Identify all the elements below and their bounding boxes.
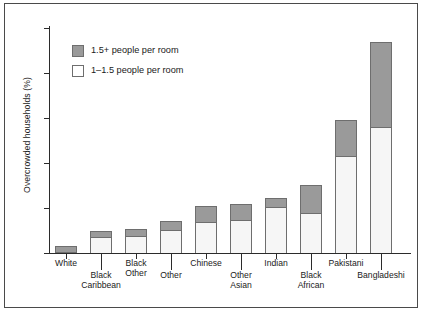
bar-segment-dense: [125, 229, 147, 236]
x-tick-bangladeshi: [381, 254, 382, 270]
x-label-indian: Indian: [264, 259, 287, 269]
x-tick-other: [171, 254, 172, 270]
legend: 1.5+ people per room 1–1.5 people per ro…: [72, 43, 183, 83]
x-label-other-asian: Other Asian: [230, 271, 252, 290]
x-label-black-caribbean-line2: Caribbean: [81, 281, 121, 291]
bar-segment-moderate: [125, 236, 147, 253]
x-tick-black-caribbean: [101, 254, 102, 270]
y-tick-20: [44, 163, 49, 164]
bar-indian[interactable]: [265, 198, 287, 253]
bar-chinese[interactable]: [195, 206, 217, 253]
bar-segment-moderate: [55, 252, 77, 253]
bar-segment-moderate: [160, 230, 182, 253]
x-label-black-caribbean: Black Caribbean: [81, 271, 121, 290]
y-tick-50: [44, 28, 49, 29]
bar-segment-dense: [230, 204, 252, 220]
x-label-black-african: Black African: [298, 271, 325, 290]
x-tick-black-african: [311, 254, 312, 270]
bar-segment-dense: [160, 221, 182, 230]
bar-segment-moderate: [370, 127, 392, 253]
x-label-white: White: [55, 259, 77, 269]
y-axis-line: [49, 26, 50, 254]
bar-black-caribbean[interactable]: [90, 231, 112, 253]
x-label-pakistani: Pakistani: [329, 259, 364, 269]
x-label-chinese: Chinese: [190, 259, 222, 269]
legend-label-moderate: 1–1.5 people per room: [91, 66, 183, 75]
bar-segment-dense: [335, 120, 357, 156]
bar-segment-moderate: [195, 222, 217, 254]
x-tick-other-asian: [241, 254, 242, 270]
chart-figure: Overcrowded households (%) 50 40 30 20 1…: [0, 0, 422, 318]
bar-segment-dense: [300, 185, 322, 213]
bar-segment-moderate: [300, 213, 322, 254]
bar-black-african[interactable]: [300, 185, 322, 253]
x-axis-line: [49, 253, 411, 254]
legend-label-dense: 1.5+ people per room: [91, 46, 179, 55]
bar-segment-dense: [265, 198, 287, 207]
legend-swatch-icon-moderate: [72, 65, 84, 77]
x-label-black-african-line2: African: [298, 281, 325, 291]
bar-segment-dense: [195, 206, 217, 221]
y-tick-10: [44, 208, 49, 209]
bar-segment-moderate: [335, 156, 357, 253]
x-label-black-other-line2: Other: [125, 269, 147, 279]
bar-segment-moderate: [265, 207, 287, 253]
bar-segment-moderate: [230, 220, 252, 253]
bar-segment-moderate: [90, 237, 112, 253]
bar-bangladeshi[interactable]: [370, 42, 392, 254]
x-label-other-asian-line2: Asian: [230, 281, 252, 291]
bar-white[interactable]: [55, 246, 77, 253]
legend-item-dense: 1.5+ people per room: [72, 43, 183, 59]
x-label-bangladeshi: Bangladeshi: [357, 271, 404, 281]
bar-segment-dense: [370, 42, 392, 128]
bar-pakistani[interactable]: [335, 120, 357, 253]
bar-black-other[interactable]: [125, 229, 147, 253]
legend-item-moderate: 1–1.5 people per room: [72, 63, 183, 79]
bar-other[interactable]: [160, 221, 182, 253]
y-tick-40: [44, 73, 49, 74]
legend-swatch-icon-dense: [72, 45, 84, 57]
y-tick-30: [44, 118, 49, 119]
bar-other-asian[interactable]: [230, 204, 252, 253]
y-axis-title: Overcrowded households (%): [22, 35, 32, 235]
x-label-black-other: Black Other: [125, 259, 147, 278]
x-label-other: Other: [160, 271, 182, 281]
